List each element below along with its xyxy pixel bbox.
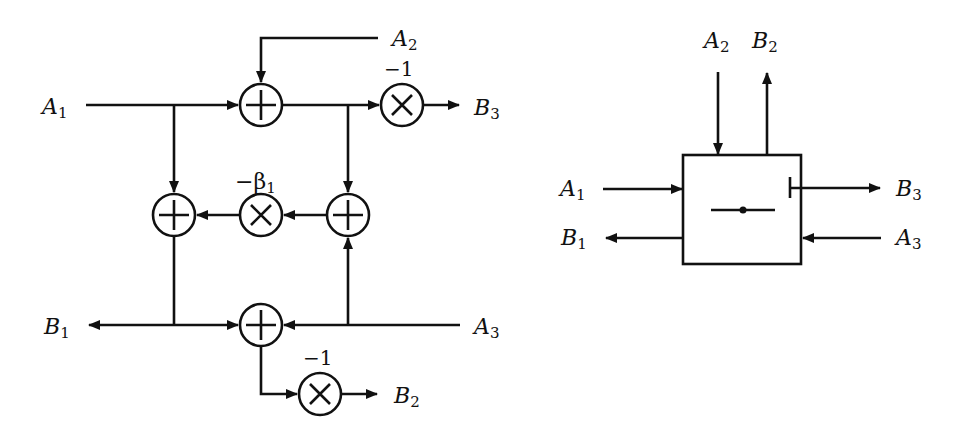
label-a3: A3 (472, 314, 499, 342)
block-label-a2: A2 (702, 28, 729, 56)
mult-top-node (381, 84, 423, 126)
adder-mid-left-node (153, 194, 195, 236)
block-label-b2: B2 (751, 28, 778, 56)
a2-to-top-adder-edge (261, 38, 378, 82)
mult-mid-node (240, 194, 282, 236)
signal-flow-graph: A1 A2 B3 −1 −β1 B1 A3 −1 B2 (40, 26, 500, 415)
label-a2: A2 (390, 26, 417, 54)
block-label-b1: B1 (560, 225, 587, 253)
gain-bottom-label: −1 (303, 346, 332, 370)
block-label-a3: A3 (894, 225, 921, 253)
block-label-b3: B3 (895, 176, 922, 204)
adder-bottom-node (240, 304, 282, 346)
gain-mid-label: −β1 (235, 169, 276, 197)
gain-top-label: −1 (384, 57, 413, 81)
bottom-adder-to-mult-edge (261, 346, 297, 394)
inner-dot (740, 207, 747, 214)
label-b2: B2 (393, 383, 420, 411)
block-label-a1: A1 (558, 176, 585, 204)
junction-figure: A1 A2 B3 −1 −β1 B1 A3 −1 B2 A2 B2 A1 B1 … (0, 0, 964, 434)
junction-block-symbol: A2 B2 A1 B1 B3 A3 (558, 28, 922, 264)
label-a1: A1 (40, 94, 67, 122)
label-b1: B1 (43, 314, 70, 342)
label-b3: B3 (473, 95, 500, 123)
adder-mid-right-node (327, 194, 369, 236)
adder-top-node (240, 84, 282, 126)
mult-bottom-node (299, 373, 341, 415)
